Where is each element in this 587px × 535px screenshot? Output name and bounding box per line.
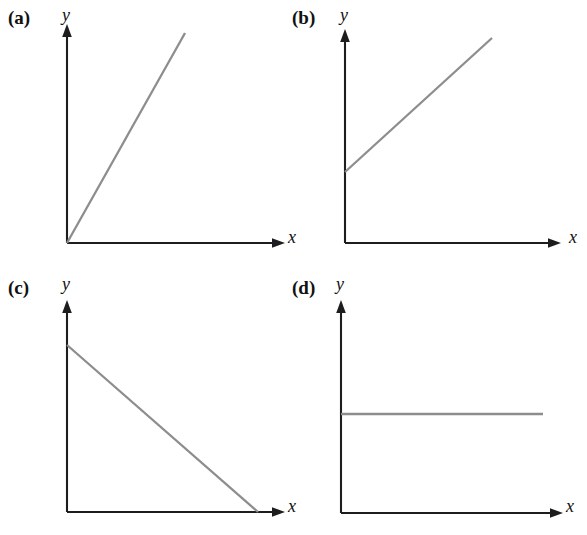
panel-c-x-axis-arrowhead: [272, 507, 285, 517]
panel-b-plot: [293, 0, 587, 267]
panel-d-y-axis-arrowhead: [336, 300, 346, 313]
panel-b-x-axis-arrowhead: [548, 238, 561, 248]
panel-b-y-axis-arrowhead: [340, 29, 350, 42]
panel-c-plot: [0, 267, 300, 535]
panel-a-data-line: [67, 33, 185, 243]
panel-a-x-axis-arrowhead: [272, 238, 285, 248]
panel-a-y-axis-arrowhead: [62, 24, 72, 37]
panel-c-y-axis-arrowhead: [62, 300, 72, 313]
panel-c-data-line: [67, 345, 258, 512]
panel-d-x-axis-arrowhead: [550, 508, 563, 518]
panel-d-plot: [293, 267, 587, 535]
panel-b-data-line: [345, 38, 492, 172]
four-panel-line-graph-figure: (a) y x (b) y x (c): [0, 0, 587, 535]
panel-a-plot: [0, 0, 300, 267]
